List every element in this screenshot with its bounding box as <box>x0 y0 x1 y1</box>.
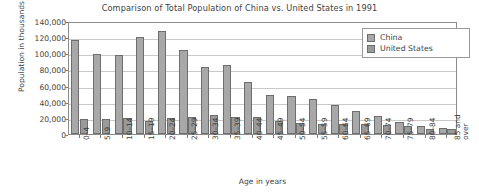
bar-china[interactable] <box>331 105 339 134</box>
legend-item-china[interactable]: China <box>367 32 465 43</box>
x-axis-tick-mark <box>252 135 253 138</box>
bar-china[interactable] <box>244 82 252 134</box>
x-axis-tick-label: 25–29 <box>190 117 199 140</box>
x-axis-tick-label: 35–39 <box>233 117 242 140</box>
bar-china[interactable] <box>115 55 123 134</box>
x-axis-tick-mark <box>403 135 404 138</box>
x-axis-tick-mark <box>230 135 231 138</box>
chart-legend: China United States <box>362 28 470 58</box>
x-axis-tick-label: 15–19 <box>147 117 156 140</box>
x-axis-tick-mark <box>273 135 274 138</box>
x-axis-tick-mark <box>122 135 123 138</box>
x-axis-tick-mark <box>317 135 318 138</box>
x-axis-tick-mark <box>381 135 382 138</box>
x-axis-tick-mark <box>144 135 145 138</box>
x-axis-tick-label: 50–54 <box>298 117 307 140</box>
y-axis-tick-label: 80,000 <box>20 66 66 75</box>
x-axis-tick-label: 40–44 <box>255 117 264 140</box>
y-axis-tick-mark <box>65 135 68 136</box>
y-axis-tick-label: 40,000 <box>20 99 66 108</box>
x-axis-tick-label: 30–34 <box>211 117 220 140</box>
bar-group <box>93 23 110 134</box>
x-axis-tick-mark <box>295 135 296 138</box>
x-axis-tick-label: 5–9 <box>103 127 112 140</box>
bar-china[interactable] <box>439 128 447 134</box>
bar-china[interactable] <box>266 95 274 134</box>
y-axis-tick-label: 100,000 <box>20 50 66 59</box>
bar-china[interactable] <box>71 40 79 134</box>
x-axis-tick-mark <box>165 135 166 138</box>
x-axis-tick-mark <box>79 135 80 138</box>
bar-china[interactable] <box>223 65 231 134</box>
legend-label-united-states: United States <box>380 44 433 53</box>
x-axis-tick-mark <box>360 135 361 138</box>
x-axis-tick-label: 0–4 <box>82 127 91 140</box>
x-axis-tick-label: 20–24 <box>168 117 177 140</box>
x-axis-tick-label: 55–59 <box>320 117 329 140</box>
y-axis-tick-label: 60,000 <box>20 83 66 92</box>
x-axis-tick-label: 60–64 <box>341 117 350 140</box>
x-axis-tick-label: 70–74 <box>384 117 393 140</box>
y-axis-tick-label: 140,000 <box>20 18 66 27</box>
bar-group <box>71 23 88 134</box>
bar-china[interactable] <box>374 116 382 134</box>
x-axis-tick-mark <box>446 135 447 138</box>
x-axis-tick-mark <box>100 135 101 138</box>
y-axis-tick-label: 120,000 <box>20 34 66 43</box>
x-axis-tick-label: 75–79 <box>406 117 415 140</box>
chart-title: Comparison of Total Population of China … <box>0 3 479 13</box>
y-axis-tick-label: 20,000 <box>20 115 66 124</box>
x-axis-tick-label: 85 and over <box>454 114 470 140</box>
bar-china[interactable] <box>287 96 295 134</box>
bar-china[interactable] <box>93 54 101 134</box>
bar-china[interactable] <box>309 99 317 134</box>
x-axis-tick-label: 45–49 <box>276 117 285 140</box>
x-axis-tick-label: 65–69 <box>363 117 372 140</box>
population-bar-chart: Comparison of Total Population of China … <box>0 0 479 193</box>
bar-china[interactable] <box>201 67 209 134</box>
bar-china[interactable] <box>136 37 144 134</box>
x-axis-title: Age in years <box>68 177 457 186</box>
x-axis-tick-mark <box>208 135 209 138</box>
y-axis-tick-label: 0 <box>20 131 66 140</box>
legend-swatch-china-icon <box>367 34 375 42</box>
bar-china[interactable] <box>352 111 360 134</box>
legend-label-china: China <box>380 33 402 42</box>
bar-china[interactable] <box>179 50 187 134</box>
bar-china[interactable] <box>417 126 425 134</box>
bar-china[interactable] <box>158 31 166 134</box>
x-axis-tick-label: 10–14 <box>125 117 134 140</box>
x-axis-tick-label: 80–84 <box>428 117 437 140</box>
x-axis-tick-mark <box>338 135 339 138</box>
x-axis-tick-mark <box>425 135 426 138</box>
bar-china[interactable] <box>395 122 403 134</box>
x-axis-tick-mark <box>187 135 188 138</box>
legend-item-united-states[interactable]: United States <box>367 43 465 54</box>
legend-swatch-united-states-icon <box>367 45 375 53</box>
